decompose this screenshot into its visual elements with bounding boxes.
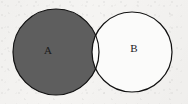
set-label-b: B (130, 42, 137, 54)
region-a-minus-b-shaded (0, 0, 188, 104)
set-label-a: A (44, 44, 52, 56)
venn-diagram-canvas: A B (0, 0, 188, 104)
venn-diagram-figure: A B (0, 0, 188, 104)
